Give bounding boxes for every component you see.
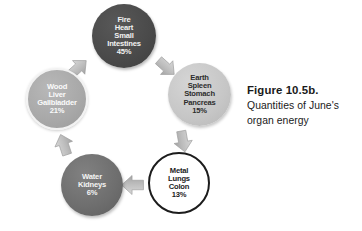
five-element-cycle-diagram: Fire Heart Small Intestines 45% Earth Sp… xyxy=(0,0,240,231)
element-node-wood[interactable]: Wood Liver Gallbladder 21% xyxy=(26,68,88,130)
element-node-fire[interactable]: Fire Heart Small Intestines 45% xyxy=(92,4,156,68)
arrow-earth-to-metal xyxy=(172,129,194,153)
arrow-water-to-wood xyxy=(52,132,76,158)
node-fire-percent: 45% xyxy=(117,48,132,56)
arrow-metal-to-water xyxy=(122,176,144,195)
figure-caption-line-2: organ energy xyxy=(247,114,359,129)
node-metal-percent: 13% xyxy=(172,191,187,199)
figure-caption-title: Figure 10.5b. xyxy=(247,84,359,96)
element-node-metal[interactable]: Metal Lungs Colon 13% xyxy=(148,152,210,214)
figure-caption: Figure 10.5b. Quantities of June's organ… xyxy=(247,84,359,129)
figure-caption-line-1: Quantities of June's xyxy=(247,99,359,114)
node-water-percent: 6% xyxy=(87,189,98,197)
element-node-water[interactable]: Water Kidneys 6% xyxy=(61,154,123,216)
figure-container: Fire Heart Small Intestines 45% Earth Sp… xyxy=(0,0,362,231)
node-wood-percent: 21% xyxy=(50,107,65,115)
element-node-earth[interactable]: Earth Spleen Stomach Pancreas 15% xyxy=(168,63,231,126)
node-earth-percent: 15% xyxy=(192,107,207,115)
